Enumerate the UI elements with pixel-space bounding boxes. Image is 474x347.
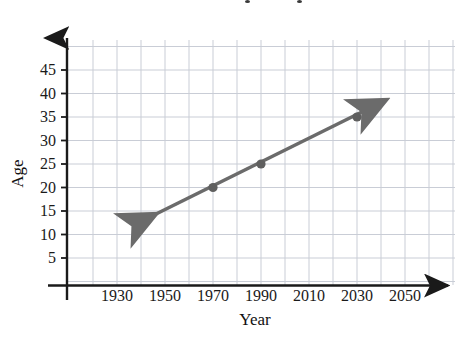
y-tick-label-5: 5 xyxy=(18,250,56,266)
y-tick-label-10: 10 xyxy=(18,227,56,243)
y-tick-label-35: 35 xyxy=(18,109,56,125)
y-axis-title: Age xyxy=(9,144,26,204)
y-tick-label-45: 45 xyxy=(18,62,56,78)
grid-lines-vertical xyxy=(93,40,453,285)
y-tick-label-40: 40 xyxy=(18,86,56,102)
data-point-1970 xyxy=(208,183,217,192)
x-tick-label-2050: 2050 xyxy=(375,288,435,304)
data-point-2030 xyxy=(352,112,361,121)
data-point-1990 xyxy=(256,159,265,168)
chart-figure: 45 40 35 30 25 20 15 10 5 1930 1950 1970… xyxy=(0,0,474,347)
x-axis-title: Year xyxy=(215,311,295,328)
y-tick-label-15: 15 xyxy=(18,203,56,219)
